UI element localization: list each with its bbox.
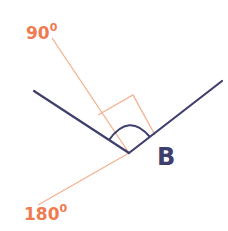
angle-arc (109, 125, 150, 140)
left-ray (34, 91, 129, 153)
line-180 (38, 153, 129, 205)
angle-diagram: 900 1800 B (0, 0, 228, 231)
vertex-label-b: B (157, 143, 175, 171)
line-90 (52, 38, 129, 153)
label-180: 1800 (24, 202, 68, 224)
right-ray (129, 81, 222, 153)
right-angle-marker (98, 95, 155, 135)
